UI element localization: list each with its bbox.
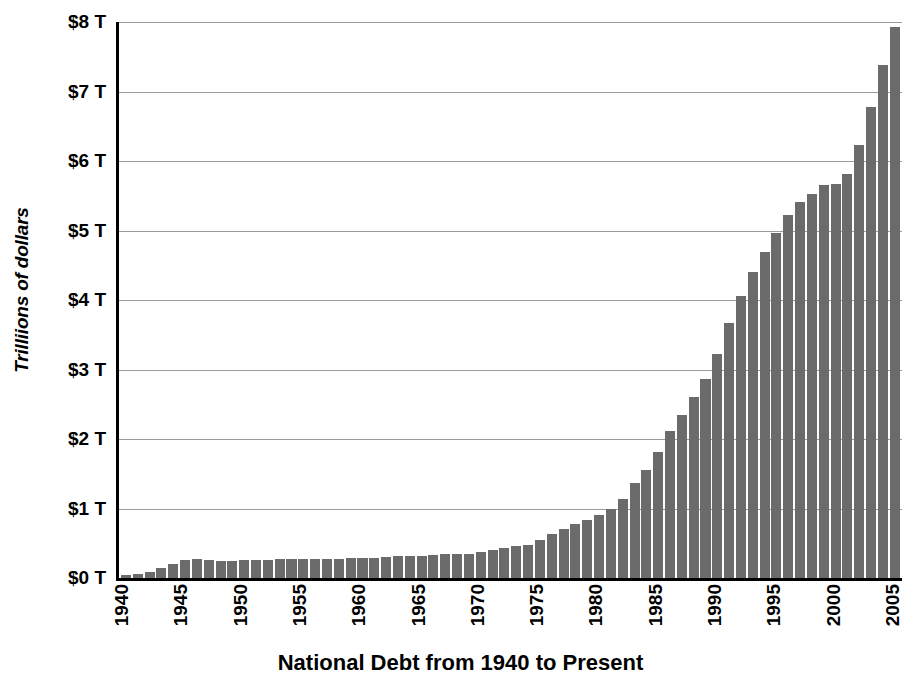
bar	[783, 215, 793, 578]
bar	[653, 452, 663, 578]
bar	[417, 556, 427, 578]
x-axis-tick-label: 1955	[289, 584, 311, 626]
bar	[405, 556, 415, 578]
x-axis-tick-label: 1990	[704, 584, 726, 626]
y-axis-tick-label: $6 T	[68, 150, 106, 172]
y-axis-tick-label: $1 T	[68, 498, 106, 520]
y-axis-title: Trilliions of dollars	[0, 0, 44, 580]
bar	[452, 554, 462, 578]
bar	[334, 559, 344, 578]
bar	[499, 548, 509, 578]
bar	[275, 559, 285, 578]
bar	[464, 554, 474, 578]
y-axis-tick-label: $5 T	[68, 220, 106, 242]
bar	[677, 415, 687, 578]
bar	[594, 515, 604, 578]
bar	[831, 184, 841, 578]
bar	[724, 323, 734, 578]
bar	[641, 470, 651, 578]
bar	[771, 233, 781, 578]
x-axis-tick-label: 1940	[111, 584, 133, 626]
bar	[239, 560, 249, 578]
bar	[511, 546, 521, 578]
y-axis-tick-label: $8 T	[68, 11, 106, 33]
chart-title: National Debt from 1940 to Present	[0, 650, 921, 676]
bar	[216, 561, 226, 578]
x-axis-tick-label: 1945	[170, 584, 192, 626]
chart-page: Trilliions of dollars $8 T$7 T$6 T$5 T$4…	[0, 0, 921, 690]
bar	[630, 483, 640, 578]
x-axis-tick-label: 1995	[763, 584, 785, 626]
bar	[606, 509, 616, 579]
bar	[488, 550, 498, 578]
bar	[842, 174, 852, 578]
bar	[346, 558, 356, 578]
bar	[310, 559, 320, 578]
bar	[476, 552, 486, 578]
x-axis-tick-label: 2005	[882, 584, 904, 626]
bar	[665, 431, 675, 578]
x-axis-tick-label: 1965	[408, 584, 430, 626]
y-axis-title-text: Trilliions of dollars	[11, 207, 33, 372]
bar	[440, 554, 450, 578]
y-axis-tick-label: $0 T	[68, 567, 106, 589]
y-axis-tick-label: $3 T	[68, 359, 106, 381]
bar	[145, 572, 155, 578]
bar	[736, 296, 746, 578]
bar	[180, 560, 190, 578]
x-axis-tick-label: 1975	[526, 584, 548, 626]
x-axis-tick-label: 1985	[645, 584, 667, 626]
bar	[192, 559, 202, 578]
bar	[133, 574, 143, 578]
x-axis-tick-labels: 1940194519501955196019651970197519801985…	[116, 584, 899, 646]
bar	[156, 568, 166, 578]
bar	[582, 520, 592, 578]
bar	[618, 499, 628, 578]
bar	[381, 557, 391, 578]
y-axis-tick-labels: $8 T$7 T$6 T$5 T$4 T$3 T$2 T$1 T$0 T	[44, 22, 112, 578]
y-axis-tick-label: $2 T	[68, 428, 106, 450]
bar	[204, 560, 214, 578]
bar	[700, 379, 710, 578]
bar	[547, 534, 557, 578]
bar	[712, 354, 722, 578]
x-axis-tick-label: 1950	[230, 584, 252, 626]
x-axis-tick-label: 2000	[823, 584, 845, 626]
bar	[890, 27, 900, 578]
bar	[393, 556, 403, 578]
bar	[689, 397, 699, 578]
bar	[251, 560, 261, 578]
bar	[878, 65, 888, 578]
bar	[559, 529, 569, 578]
bar	[795, 202, 805, 578]
bar	[807, 194, 817, 578]
bar	[121, 575, 131, 578]
bar	[819, 185, 829, 578]
bar	[535, 540, 545, 578]
bar	[854, 145, 864, 578]
bar	[369, 558, 379, 578]
bar	[286, 559, 296, 578]
bar	[570, 524, 580, 578]
bar	[322, 559, 332, 578]
y-axis-tick-label: $7 T	[68, 81, 106, 103]
y-axis-tick-label: $4 T	[68, 289, 106, 311]
bar	[523, 545, 533, 578]
bar	[760, 252, 770, 578]
plot-area	[116, 22, 902, 581]
bar	[263, 560, 273, 578]
bar	[298, 559, 308, 578]
bar	[227, 561, 237, 578]
x-axis-tick-label: 1980	[585, 584, 607, 626]
bar	[748, 272, 758, 578]
bar	[866, 107, 876, 578]
bar	[428, 555, 438, 578]
bar	[357, 558, 367, 578]
x-axis-tick-label: 1970	[467, 584, 489, 626]
x-axis-tick-label: 1960	[348, 584, 370, 626]
bar-series	[119, 22, 902, 578]
bar	[168, 564, 178, 578]
